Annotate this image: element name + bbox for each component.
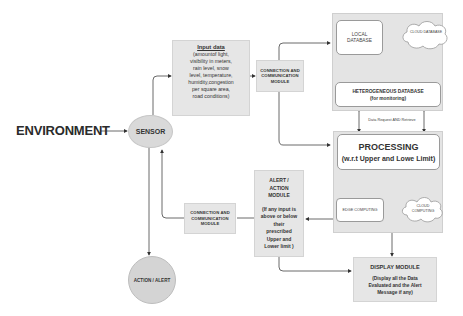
input-data-line: per square area, (173, 86, 249, 93)
input-data-line: humidity,congestion (173, 79, 249, 86)
arrow-conn-processing (279, 91, 330, 145)
display-desc-line: (Display all the Data (354, 275, 436, 282)
edge-computing-box: EDGE COMPUTING (336, 198, 384, 222)
hetero-db-subtitle: (for monitoring) (370, 95, 406, 102)
alert-desc-line: prescribed (255, 228, 303, 236)
arrow-alert-display (279, 256, 351, 271)
sensor-node: SENSOR (128, 115, 173, 148)
arrow-conn-storage (279, 43, 330, 60)
heterogeneous-database-box: HETEROGENEOUS DATABASE (for monitoring) (335, 82, 441, 107)
connection-module-bottom: CONNECTION AND COMMUNICATION MODULE (184, 203, 236, 234)
processing-subtitle: (w.r.t Upper and Lowe Limit) (342, 153, 435, 164)
edge-computing-label: EDGE COMPUTING (342, 208, 377, 213)
cloud-database-shape (400, 18, 450, 53)
input-data-line: road conditions) (173, 93, 249, 100)
data-request-label: Data Request AND Retrieve (362, 118, 422, 123)
input-data-line: (amountof light, (173, 51, 249, 58)
alert-action-module: ALERT / ACTION MODULE (If any input is a… (254, 170, 304, 257)
input-data-title: Input data (173, 44, 249, 51)
hetero-db-title: HETEROGENEOUS DATABASE (352, 88, 423, 95)
alert-desc-line: Upper and (255, 236, 303, 244)
action-alert-node: ACTION / ALERT (128, 256, 176, 304)
alert-desc-line: above or below (255, 213, 303, 221)
input-data-line: visibility in meters, (173, 58, 249, 65)
display-desc-line: Message if any) (354, 289, 436, 296)
cloud-database-label: CLOUD DATABASE (403, 30, 449, 35)
alert-desc-line: their (255, 221, 303, 229)
input-data-line: rain level, snow (173, 65, 249, 72)
connection-module-top: CONNECTION AND COMMUNICATION MODULE (256, 60, 304, 92)
cloud-computing-line: COMPUTING (404, 209, 442, 214)
display-title: DISPLAY MODULE (354, 263, 436, 271)
alert-desc-line: Lower limit ) (255, 243, 303, 251)
sensor-label: SENSOR (136, 128, 166, 135)
cloud-computing-label: CLOUD COMPUTING (404, 204, 442, 213)
arrow-sensor-input (153, 76, 171, 115)
local-database-box: LOCAL DATABASE (336, 20, 383, 55)
input-data-line: level, temperature, (173, 72, 249, 79)
alert-title-line: MODULE (255, 192, 303, 200)
local-db-line: DATABASE (347, 38, 372, 44)
conn-bottom-line: MODULE (201, 221, 220, 227)
arrow-conn-sensor (162, 150, 184, 218)
alert-title-line: ALERT / (255, 177, 303, 185)
conn-top-line: MODULE (271, 79, 290, 85)
action-alert-label: ACTION / ALERT (134, 278, 171, 283)
alert-title-line: ACTION (255, 185, 303, 193)
processing-title: PROCESSING (358, 141, 418, 153)
display-desc-line: Evaluated and the Alert (354, 282, 436, 289)
alert-desc-line: (If any input is (255, 206, 303, 214)
processing-box: PROCESSING (w.r.t Upper and Lowe Limit) (337, 134, 440, 170)
environment-label: ENVIRONMENT (16, 123, 110, 138)
display-module: DISPLAY MODULE (Display all the Data Eva… (353, 257, 437, 302)
input-data-box: Input data (amountof light, visibility i… (172, 40, 250, 116)
